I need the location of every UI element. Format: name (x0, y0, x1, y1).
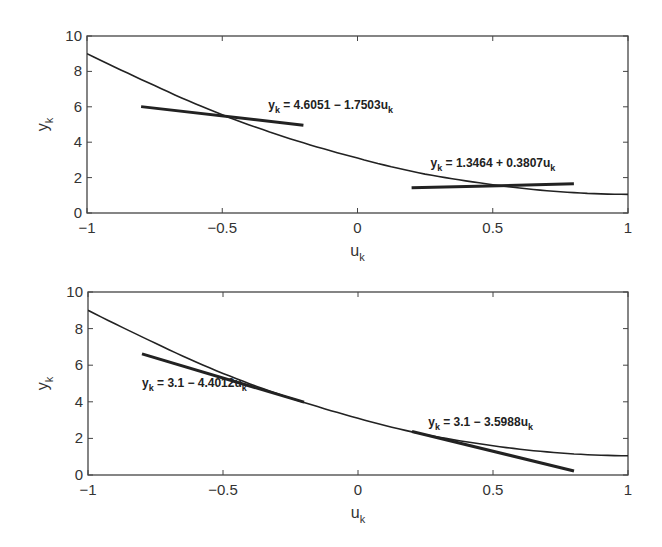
y-tick-label: 0 (74, 204, 82, 221)
equation-annotation: yk = 3.1 − 4.4012uk (142, 376, 248, 393)
y-tick-label: 6 (74, 98, 82, 115)
figure: −1−0.500.510246810ukykyk = 4.6051 − 1.75… (0, 0, 662, 547)
linearization-line (412, 184, 574, 188)
x-tick-label: 0 (354, 481, 362, 498)
x-tick-label: 0 (353, 219, 361, 236)
y-tick-label: 8 (75, 320, 83, 337)
equation-annotation: yk = 3.1 − 3.5988uk (428, 415, 534, 432)
x-tick-label: 1 (624, 219, 632, 236)
axes-frame (87, 36, 628, 213)
y-axis-label: yk (34, 376, 55, 390)
nonlinear-curve (87, 54, 628, 195)
linearization-line (412, 431, 574, 471)
equation-annotation: yk = 4.6051 − 1.7503uk (268, 98, 394, 115)
x-tick-label: −0.5 (207, 219, 237, 236)
y-tick-label: 4 (74, 133, 82, 150)
y-tick-label: 6 (75, 356, 83, 373)
y-tick-label: 2 (74, 169, 82, 186)
y-tick-label: 10 (65, 27, 82, 44)
y-tick-label: 2 (75, 429, 83, 446)
y-tick-label: 10 (66, 283, 83, 300)
x-axis-label: uk (350, 242, 365, 263)
bottom-plot-panel: −1−0.500.510246810ukykyk = 3.1 − 4.4012u… (34, 283, 632, 525)
x-tick-label: −1 (78, 219, 95, 236)
y-tick-label: 0 (75, 466, 83, 483)
y-tick-label: 4 (75, 393, 83, 410)
x-tick-label: 1 (624, 481, 632, 498)
y-tick-label: 8 (74, 62, 82, 79)
x-tick-label: 0.5 (483, 481, 504, 498)
top-plot-panel: −1−0.500.510246810ukykyk = 4.6051 − 1.75… (34, 27, 632, 263)
x-tick-label: −0.5 (208, 481, 238, 498)
x-tick-label: −1 (79, 481, 96, 498)
x-axis-label: uk (351, 504, 366, 525)
equation-annotation: yk = 1.3464 + 0.3807uk (431, 156, 557, 173)
y-axis-label: yk (34, 117, 55, 131)
x-tick-label: 0.5 (482, 219, 503, 236)
